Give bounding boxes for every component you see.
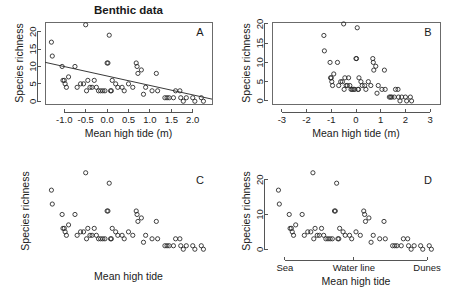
data-point	[354, 230, 358, 234]
data-point	[81, 82, 85, 86]
data-point	[375, 91, 379, 95]
panel-letter-d: D	[424, 174, 432, 186]
data-point	[139, 216, 143, 220]
data-point	[382, 68, 386, 72]
y-tick-label: 10	[255, 57, 266, 68]
x-tick-label: -3	[278, 114, 286, 125]
data-point	[193, 99, 197, 103]
x-tick-label: -1	[327, 114, 335, 125]
data-point	[399, 244, 403, 248]
y-axis-title: Species richness	[13, 23, 25, 102]
x-tick-label: -2	[302, 114, 310, 125]
data-point	[421, 247, 425, 251]
x-tick-label: Dunes	[413, 262, 441, 273]
data-point	[378, 237, 382, 241]
data-point	[335, 60, 339, 64]
data-point	[50, 54, 54, 58]
data-point	[66, 75, 70, 79]
data-point	[131, 233, 135, 237]
data-point	[332, 72, 336, 76]
data-point	[312, 237, 316, 241]
data-point	[287, 212, 291, 216]
data-point	[367, 216, 371, 220]
data-point	[328, 60, 332, 64]
y-tick-label: 20	[255, 19, 266, 30]
data-point	[73, 64, 77, 68]
data-point	[144, 85, 148, 89]
data-point	[313, 226, 317, 230]
data-point	[309, 230, 313, 234]
data-point	[335, 181, 339, 185]
data-point	[174, 237, 178, 241]
data-point	[75, 233, 79, 237]
x-tick-label: 0	[353, 114, 358, 125]
x-tick-label: 2.0	[186, 114, 199, 125]
data-point	[110, 226, 114, 230]
panel-d-scatter: 01020Species richnessSeaWater lineDunesM…	[240, 171, 441, 287]
data-point	[73, 212, 77, 216]
data-point	[116, 85, 120, 89]
data-point	[126, 230, 130, 234]
data-point	[350, 237, 354, 241]
data-point	[343, 233, 347, 237]
data-point	[276, 188, 280, 192]
data-point	[150, 89, 154, 93]
panel-a-scatter: Benthic data05101520Species richness-1.0…	[13, 4, 212, 139]
data-point	[107, 33, 111, 37]
data-point	[376, 83, 380, 87]
data-point	[126, 82, 130, 86]
data-point	[110, 78, 114, 82]
data-point	[363, 219, 367, 223]
panel-letter-c: C	[196, 174, 204, 186]
x-tick-label: 0.0	[100, 114, 113, 125]
y-axis-title: Species richness	[19, 171, 31, 250]
y-tick-label: 0	[28, 99, 39, 104]
x-tick-label: Sea	[276, 262, 294, 273]
data-point	[405, 99, 409, 103]
y-axis-title: Species richness	[240, 171, 252, 250]
y-tick-label: 5	[255, 79, 266, 84]
data-point	[122, 89, 126, 93]
x-tick-label: 1.0	[143, 114, 156, 125]
data-point	[156, 237, 160, 241]
x-axis-title: Mean high tide	[94, 270, 163, 282]
panel-b-scatter: 05101520Species richness-3-2-10123Mean h…	[240, 19, 440, 139]
data-point	[319, 226, 323, 230]
data-point	[81, 230, 85, 234]
panel-letter-b: B	[424, 26, 431, 38]
data-point	[184, 96, 188, 100]
data-point	[366, 80, 370, 84]
data-point	[371, 233, 375, 237]
benthic-data-figure: Benthic data05101520Species richness-1.0…	[0, 0, 454, 296]
data-point	[141, 92, 145, 96]
data-point	[86, 78, 90, 82]
data-point	[92, 78, 96, 82]
data-point	[136, 71, 140, 75]
data-point	[412, 244, 416, 248]
data-point	[178, 237, 182, 241]
x-tick-label: 2	[403, 114, 408, 125]
data-point	[75, 85, 79, 89]
x-tick-label: -0.5	[77, 114, 93, 125]
data-point	[86, 226, 90, 230]
x-axis-title: Mean high tide	[322, 275, 391, 287]
data-point	[382, 219, 386, 223]
data-point	[139, 68, 143, 72]
data-point	[131, 85, 135, 89]
y-tick-label: 20	[28, 26, 39, 37]
data-point	[364, 87, 368, 91]
data-point	[60, 212, 64, 216]
y-tick-label: 20	[255, 174, 266, 185]
y-tick-label: 15	[28, 44, 39, 55]
data-point	[311, 171, 315, 175]
data-point	[406, 237, 410, 241]
data-point	[277, 202, 281, 206]
y-tick-label: 0	[255, 247, 266, 252]
data-point	[116, 233, 120, 237]
data-point	[201, 247, 205, 251]
data-point	[136, 219, 140, 223]
panel-c-scatter: Species richnessMean high tideC	[19, 171, 206, 282]
data-point	[409, 99, 413, 103]
data-point	[141, 240, 145, 244]
x-tick-label: Water line	[333, 262, 375, 273]
